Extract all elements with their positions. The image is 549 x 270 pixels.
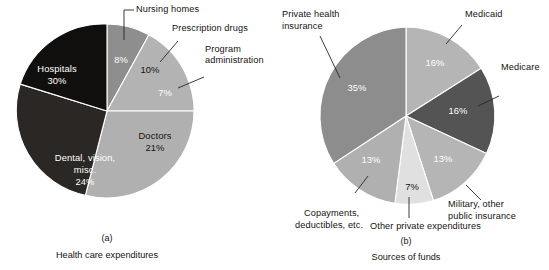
slice-value-nursing-homes: 8% [114,54,128,65]
slice-value-private-health: 35% [347,82,366,93]
slice-label-hospitals: Hospitals [37,63,77,74]
callout-medicare: Medicare [501,62,540,73]
slice-label-doctors: Doctors [139,130,172,141]
slice-value-program-administration: 7% [158,87,172,98]
callout-military-line1: Military, other [448,199,504,210]
callout-other-private-expenditures: Other private expenditures [370,221,481,232]
slice-label-dental-line1: Dental, vision, [55,152,115,163]
callout-private-health-line1: Private health [282,9,340,20]
slice-value-copayments: 13% [361,154,380,165]
leader-private-health [320,36,340,78]
callout-private-health-line2: insurance [282,21,323,32]
callout-program-administration-line1: Program [205,44,241,55]
slice-value-hospitals: 30% [47,75,66,86]
slice-value-other-private: 7% [405,181,419,192]
slice-value-doctors: 21% [145,142,164,153]
figure-canvas: 8% 10% 7% Doctors 21% Dental, vision, mi… [0,0,549,270]
slice-value-prescription-drugs: 10% [140,64,159,75]
callout-prescription-drugs: Prescription drugs [172,23,248,34]
callout-medicaid: Medicaid [465,9,503,20]
caption-health-care-expenditures: Health care expenditures [27,250,187,262]
pie-b-slices [320,27,495,204]
callout-copayments-line1: Copayments, [304,208,359,219]
callout-program-administration-line2: administration [205,55,264,66]
leader-military [466,185,481,200]
slice-value-dental: 24% [75,176,94,187]
slice-label-dental-line2: misc. [74,164,96,175]
panel-letter-b: (b) [386,236,426,246]
slice-value-medicare: 16% [448,105,467,116]
slice-value-medicaid: 16% [425,57,444,68]
callout-copayments-line2: deductibles, etc. [295,220,363,231]
slice-value-military: 13% [433,153,452,164]
caption-sources-of-funds: Sources of funds [336,252,476,264]
callout-nursing-homes: Nursing homes [136,4,199,15]
panel-letter-a: (a) [87,233,127,243]
pie-a-slices [16,24,194,198]
